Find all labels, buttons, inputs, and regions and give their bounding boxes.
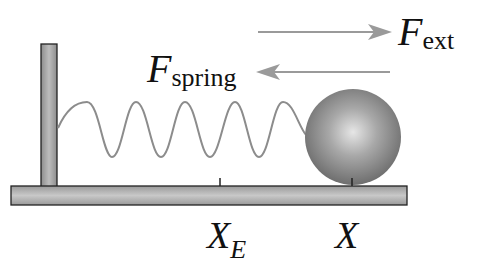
- spring-mass-diagram: Fext Fspring XE X: [0, 0, 493, 270]
- spring-force-arrow: [256, 64, 390, 80]
- spring-force-label: Fspring: [146, 46, 236, 92]
- spring: [58, 102, 306, 157]
- wall-post: [41, 44, 57, 187]
- external-force-arrow: [258, 24, 392, 40]
- position-label: X: [333, 214, 360, 256]
- equilibrium-label: XE: [205, 214, 246, 264]
- external-force-label: Fext: [397, 9, 455, 55]
- ball-mass: [305, 89, 401, 185]
- base-surface: [11, 186, 407, 205]
